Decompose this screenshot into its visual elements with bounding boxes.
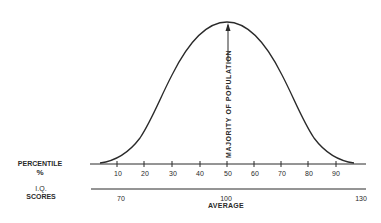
bell-curve-chart: MAJORITY OF POPULATION 10 20 30 40 50 60… [0, 0, 381, 223]
tick-label-50: 50 [224, 170, 232, 177]
percentile-axis-title: PERCENTILE [18, 160, 63, 167]
iq-axis-title: I.Q. [35, 185, 46, 193]
iq-label-70: 70 [117, 195, 125, 202]
tick-label-10: 10 [114, 170, 122, 177]
arrow-head-icon [226, 23, 231, 31]
tick-label-60: 60 [251, 170, 259, 177]
tick-label-20: 20 [141, 170, 149, 177]
tick-label-70: 70 [278, 170, 286, 177]
iq-axis-subtitle: SCORES [26, 193, 56, 200]
iq-label-130: 130 [355, 195, 367, 202]
tick-label-40: 40 [196, 170, 204, 177]
iq-label-100: 100 [220, 195, 232, 202]
percentile-axis-unit: % [36, 168, 43, 177]
percentile-tick-labels: 10 20 30 40 50 60 70 80 90 [114, 170, 340, 177]
iq-label-average: AVERAGE [208, 202, 244, 209]
tick-label-80: 80 [305, 170, 313, 177]
tick-label-90: 90 [332, 170, 340, 177]
tick-label-30: 30 [169, 170, 177, 177]
annotation-majority-of-population: MAJORITY OF POPULATION [225, 50, 232, 158]
